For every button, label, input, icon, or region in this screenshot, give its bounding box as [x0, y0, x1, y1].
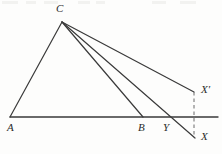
scan-artifact	[96, 1, 105, 4]
vertex-label-C: C	[56, 3, 63, 14]
scan-artifact	[44, 1, 58, 4]
scan-artifact	[152, 1, 166, 4]
scan-artifact	[2, 1, 18, 4]
vertex-label-B: B	[138, 122, 145, 133]
figure-canvas	[0, 0, 222, 154]
segment-C-to-X	[62, 22, 195, 138]
scan-artifact	[26, 1, 36, 4]
vertex-label-Y: Y	[163, 122, 169, 133]
vertex-label-A: A	[7, 122, 14, 133]
geometry-figure: C A B Y X′ X	[0, 0, 222, 154]
vertex-label-X-prime: X′	[201, 84, 210, 95]
segment-C-to-A	[10, 22, 62, 117]
vertex-label-X: X	[201, 131, 208, 142]
scan-artifact	[180, 1, 196, 4]
segment-C-to-X-prime	[62, 22, 194, 92]
scan-artifact	[78, 1, 90, 4]
construction-lines	[10, 22, 218, 138]
segment-C-to-B	[62, 22, 143, 117]
